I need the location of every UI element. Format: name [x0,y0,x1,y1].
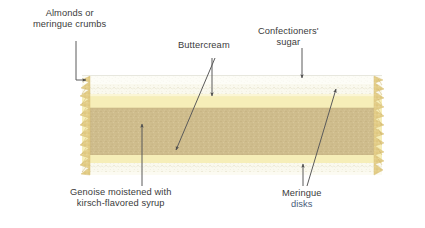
label-meringue-disks: Meringue disks [282,188,322,211]
cake-body [80,75,384,175]
label-almonds-line1: Almonds or [33,8,106,19]
label-almonds-line2: meringue crumbs [33,19,106,30]
label-genoise: Genoise moistened with kirsch-flavored s… [70,187,171,210]
layer-meringue-disk-top [82,84,382,95]
almond-crumb-edge-right [374,76,384,175]
label-almonds-or-meringue-crumbs: Almonds or meringue crumbs [33,8,106,31]
layer-buttercream-lower [82,155,382,164]
label-buttercream-line1: Buttercream [178,40,230,51]
arrow-almonds [76,41,86,80]
label-buttercream: Buttercream [178,40,230,51]
diagram-canvas: Almonds or meringue crumbs Buttercream C… [0,0,425,228]
label-confectioners-sugar: Confectioners' sugar [258,26,319,49]
label-meringue-line2: disks [282,199,322,210]
layer-meringue-disk-bottom [82,163,382,173]
layer-genoise [90,108,374,155]
label-sugar-line1: Confectioners' [258,26,319,37]
label-meringue-line1: Meringue [282,188,322,199]
layer-buttercream-upper [82,94,382,109]
layer-sugar-bottom-edge [82,172,382,175]
cake-cross-section-illustration [0,0,425,228]
layer-confectioners-sugar-top [82,75,382,85]
label-sugar-line2: sugar [258,37,319,48]
label-genoise-line1: Genoise moistened with [70,187,171,198]
label-genoise-line2: kirsch-flavored syrup [70,198,171,209]
